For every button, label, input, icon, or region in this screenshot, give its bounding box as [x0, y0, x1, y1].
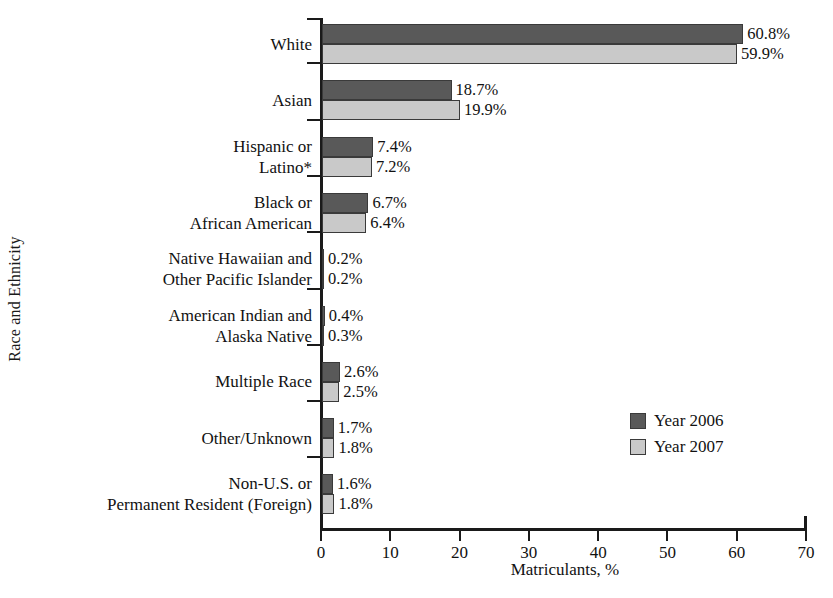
bar-2006 [322, 24, 743, 44]
bar-2007 [322, 157, 372, 177]
bar-2006 [322, 137, 373, 157]
bar-value-label: 0.3% [328, 326, 362, 346]
y-axis-tick [307, 456, 320, 458]
category-label: Other/Unknown [202, 428, 312, 449]
category-label: Non-U.S. or Permanent Resident (Foreign) [107, 473, 312, 515]
category-label: Black or African American [190, 192, 312, 234]
bar-2006 [322, 80, 452, 100]
plot-area: 60.8%59.9%18.7%19.9%7.4%7.2%6.7%6.4%0.2%… [320, 18, 805, 528]
legend-item: Year 2007 [630, 434, 724, 460]
bar-2006 [322, 249, 324, 269]
bar-value-label: 2.6% [344, 362, 378, 382]
x-axis-tick [528, 530, 530, 541]
category-label: Multiple Race [215, 371, 312, 392]
category-label: Hispanic or Latino* [233, 136, 312, 178]
x-axis-line [320, 528, 807, 531]
legend-swatch-icon [630, 413, 646, 429]
legend-label: Year 2006 [654, 411, 724, 431]
y-axis-tick [307, 62, 320, 64]
y-axis-tick [307, 18, 320, 20]
category-label: Asian [272, 90, 312, 111]
bar-value-label: 1.8% [338, 494, 372, 514]
legend-swatch-icon [630, 439, 646, 455]
x-axis-end-cap [804, 516, 807, 530]
bar-value-label: 0.4% [329, 306, 363, 326]
bar-value-label: 2.5% [343, 382, 377, 402]
x-axis-tick [597, 530, 599, 541]
x-axis-tick [320, 530, 322, 541]
bar-value-label: 7.2% [376, 157, 410, 177]
bar-2006 [322, 474, 333, 494]
bar-2007 [322, 438, 334, 458]
bar-value-label: 1.8% [338, 438, 372, 458]
category-label: White [270, 34, 312, 55]
bar-value-label: 0.2% [328, 269, 362, 289]
bar-2007 [322, 44, 737, 64]
bar-2007 [322, 494, 334, 514]
legend-item: Year 2006 [630, 408, 724, 434]
x-axis-tick [805, 530, 807, 541]
x-axis-title: Matriculants, % [320, 560, 810, 580]
y-axis-tick [307, 400, 320, 402]
bar-2006 [322, 306, 325, 326]
x-axis-tick [736, 530, 738, 541]
bar-value-label: 1.7% [338, 418, 372, 438]
bar-2007 [322, 269, 324, 289]
y-axis-tick [307, 119, 320, 121]
bar-value-label: 6.4% [370, 213, 404, 233]
x-axis-tick [666, 530, 668, 541]
bar-2006 [322, 362, 340, 382]
legend-label: Year 2007 [654, 437, 724, 457]
bar-2007 [322, 213, 366, 233]
bar-value-label: 19.9% [464, 100, 507, 120]
category-label: Native Hawaiian and Other Pacific Island… [163, 248, 312, 290]
category-label: American Indian and Alaska Native [169, 305, 313, 347]
bar-2006 [322, 418, 334, 438]
bar-value-label: 59.9% [741, 44, 784, 64]
bar-2007 [322, 100, 460, 120]
bar-value-label: 1.6% [337, 474, 371, 494]
bar-value-label: 18.7% [456, 80, 499, 100]
bar-value-label: 0.2% [328, 249, 362, 269]
bar-value-label: 7.4% [377, 137, 411, 157]
bar-value-label: 6.7% [372, 193, 406, 213]
bar-2006 [322, 193, 368, 213]
bar-chart: Race and Ethnicity 60.8%59.9%18.7%19.9%7… [0, 0, 833, 598]
x-axis-tick [459, 530, 461, 541]
bar-2007 [322, 326, 324, 346]
bar-2007 [322, 382, 339, 402]
bar-value-label: 60.8% [747, 24, 790, 44]
x-axis-tick [389, 530, 391, 541]
legend: Year 2006Year 2007 [630, 408, 724, 460]
y-axis-title: Race and Ethnicity [0, 0, 30, 598]
